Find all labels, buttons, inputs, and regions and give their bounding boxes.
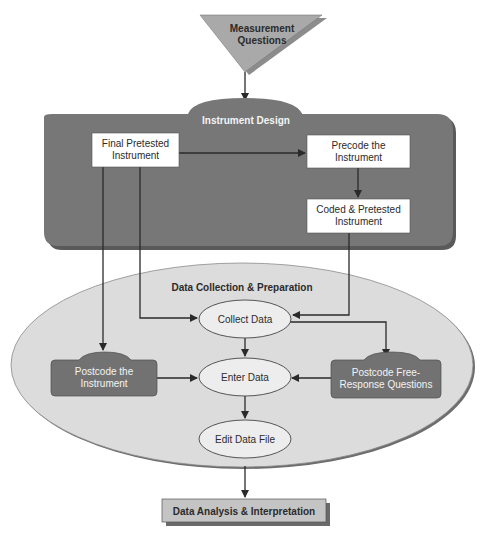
edit-data-file-label: Edit Data File [215,434,275,445]
measurement-questions-node: Measurement Questions [200,15,327,75]
data-analysis-box: Data Analysis & Interpretation [162,499,330,526]
coded-line1: Coded & Pretested [316,204,401,215]
coded-line2: Instrument [335,216,382,227]
collect-data-label: Collect Data [218,314,273,325]
precode-line1: Precode the [332,140,386,151]
start-label-line1: Measurement [230,23,295,34]
final-pretested-instrument-box: Final Pretested Instrument [92,133,179,167]
enter-data-label: Enter Data [221,372,269,383]
final-pretested-line2: Instrument [112,150,159,161]
edit-data-file-node: Edit Data File [199,420,291,458]
flowchart: Measurement Questions Instrument Design … [0,0,484,540]
precode-line2: Instrument [335,152,382,163]
collect-data-node: Collect Data [199,300,291,338]
instrument-design-title: Instrument Design [202,115,290,126]
data-collection-title: Data Collection & Preparation [171,282,312,293]
enter-data-node: Enter Data [199,358,291,396]
postcode-instrument-line1: Postcode the [75,366,134,377]
postcode-instrument-line2: Instrument [80,378,127,389]
start-label-line2: Questions [238,35,287,46]
postcode-free-line2: Response Questions [340,379,433,390]
final-pretested-line1: Final Pretested [102,138,169,149]
coded-pretested-instrument-box: Coded & Pretested Instrument [307,199,410,233]
precode-instrument-box: Precode the Instrument [307,135,410,168]
data-analysis-label: Data Analysis & Interpretation [173,506,315,517]
postcode-free-line1: Postcode Free- [352,367,420,378]
